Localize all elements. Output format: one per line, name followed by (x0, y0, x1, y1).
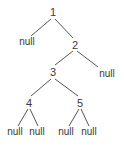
tree-edge (55, 51, 73, 65)
tree-edge (31, 79, 51, 96)
node-4: 4 (26, 98, 32, 108)
tree-edge (31, 19, 51, 36)
node-null-right-of-4: null (29, 127, 45, 137)
node-2: 2 (72, 40, 78, 50)
tree-edge (18, 109, 28, 126)
node-null-right-of-5: null (81, 127, 97, 137)
binary-tree-diagram: 1 null 2 3 null 4 5 null null null null (0, 0, 124, 148)
node-null-left-of-5: null (58, 127, 74, 137)
tree-edge (81, 109, 89, 126)
tree-edge (55, 79, 78, 96)
tree-edge (77, 51, 98, 67)
node-null-right-of-2: null (99, 69, 115, 79)
node-1: 1 (50, 7, 56, 17)
tree-edge (30, 109, 38, 126)
tree-edge (55, 19, 73, 38)
node-5: 5 (77, 98, 83, 108)
tree-edge (69, 109, 79, 126)
node-3: 3 (50, 67, 56, 77)
node-null-left-of-4: null (7, 127, 23, 137)
node-null-left-of-1: null (19, 37, 35, 47)
